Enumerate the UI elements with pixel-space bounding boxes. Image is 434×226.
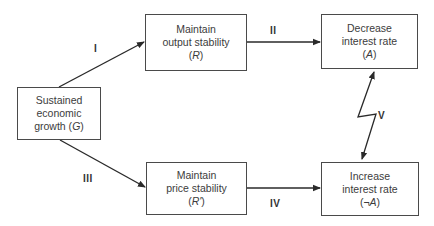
node-r-symbol-line: (R) (189, 49, 204, 62)
edge-g-to-r-arrow (59, 42, 144, 87)
node-r-prime-line1: Maintain (177, 169, 217, 182)
node-g-line3-prefix: growth ( (34, 120, 72, 132)
node-not-a-symbol-line: (¬A) (360, 196, 380, 209)
node-r-line1: Maintain (176, 23, 216, 36)
node-sustained-economic-growth: Sustained economic growth (G) (17, 87, 101, 140)
node-maintain-price-stability: Maintain price stability (R') (146, 162, 247, 215)
node-g-line3-suffix: ) (80, 120, 84, 132)
node-g-line2: economic (37, 107, 82, 120)
edge-label-v: V (378, 110, 385, 121)
node-r-prime-sym-suffix: ) (201, 195, 205, 207)
policy-conflict-diagram: Sustained economic growth (G) Maintain o… (0, 0, 434, 226)
node-g-line1: Sustained (36, 94, 83, 107)
node-a-symbol-line: (A) (362, 48, 376, 61)
node-a-line1: Decrease (347, 22, 392, 35)
node-not-a-sym-prefix: (¬ (360, 196, 370, 208)
node-a-symbol: A (366, 48, 373, 60)
node-g-line3: growth (G) (34, 120, 84, 133)
edge-label-iv: IV (270, 198, 280, 209)
node-a-line2: interest rate (342, 35, 397, 48)
node-not-a-line1: Increase (350, 170, 390, 183)
edge-g-to-r-prime-arrow (60, 140, 145, 187)
edge-label-ii: II (270, 25, 277, 36)
node-decrease-interest-rate: Decrease interest rate (A) (321, 14, 418, 69)
node-not-a-symbol: A (370, 196, 377, 208)
node-increase-interest-rate: Increase interest rate (¬A) (321, 162, 419, 216)
node-r-prime-line2: price stability (166, 182, 227, 195)
node-r-prime-symbol-line: (R') (188, 195, 205, 208)
edge-label-i: I (94, 43, 97, 54)
node-not-a-line2: interest rate (342, 183, 397, 196)
node-r-prime-symbol: R' (192, 195, 202, 207)
node-r-sym-suffix: ) (200, 49, 204, 61)
node-r-symbol: R (192, 49, 200, 61)
node-maintain-output-stability: Maintain output stability (R) (145, 14, 247, 71)
node-a-sym-suffix: ) (373, 48, 377, 60)
edge-conflict-zigzag (358, 72, 376, 159)
node-r-line2: output stability (162, 36, 229, 49)
node-not-a-sym-suffix: ) (377, 196, 381, 208)
edge-label-iii: III (83, 173, 93, 184)
